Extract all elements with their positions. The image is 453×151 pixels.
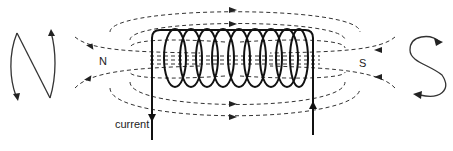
n-pole-symbol [11,32,55,98]
n-symbol-arrows [13,29,55,101]
north-pole-label: N [99,55,107,67]
solenoid-diagram [0,0,453,151]
arrow-up-icon [309,101,317,109]
current-label: current [115,118,149,130]
arrow-up-icon [48,29,55,36]
arrow-right-icon [229,101,237,107]
arrow-right-icon [229,21,237,27]
field-arrows [84,7,382,120]
field-lines [75,12,395,116]
arrow-left-icon [84,75,93,82]
arrow-left-icon [86,42,95,49]
arrow-right-icon [229,114,237,120]
s-symbol-arrows [413,38,443,99]
arrow-left-icon [413,91,422,99]
arrow-left-icon [374,74,382,80]
arrow-right-icon [434,38,443,46]
field-line-left-inner-1 [130,40,225,48]
coil-turn [276,29,298,87]
arrow-left-icon [374,47,382,53]
field-line-outer-bottom [110,88,360,116]
solenoid-wire [152,29,313,140]
south-pole-label: S [359,57,366,69]
field-line-left-inner-2 [130,72,225,78]
arrow-down-icon [13,93,20,101]
